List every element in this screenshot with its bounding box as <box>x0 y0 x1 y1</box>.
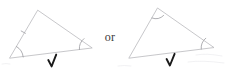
left-triangle-outline <box>10 11 92 59</box>
left-triangle-angle-arc-bottom-left <box>16 47 23 58</box>
left-triangle-check-icon <box>48 55 56 67</box>
right-triangle-outline <box>129 8 214 58</box>
right-triangle-group <box>129 8 214 65</box>
geometry-figure-panel: or <box>0 0 229 73</box>
scan-artifacts <box>2 54 224 66</box>
right-triangle-check-icon <box>167 54 175 66</box>
or-separator-label: or <box>98 30 122 44</box>
right-triangle-angle-arc-apex <box>152 16 164 19</box>
left-triangle-group <box>10 11 92 67</box>
